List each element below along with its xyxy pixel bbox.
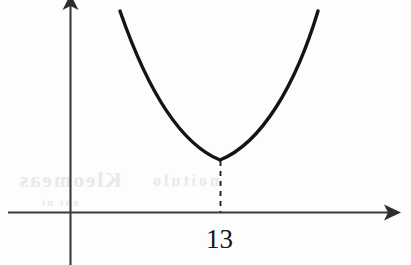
parabola-figure: Kleomeas noitulo eht ni 13 — [0, 0, 411, 265]
x-tick-label-13: 13 — [206, 226, 233, 253]
parabola-curve — [120, 11, 318, 160]
